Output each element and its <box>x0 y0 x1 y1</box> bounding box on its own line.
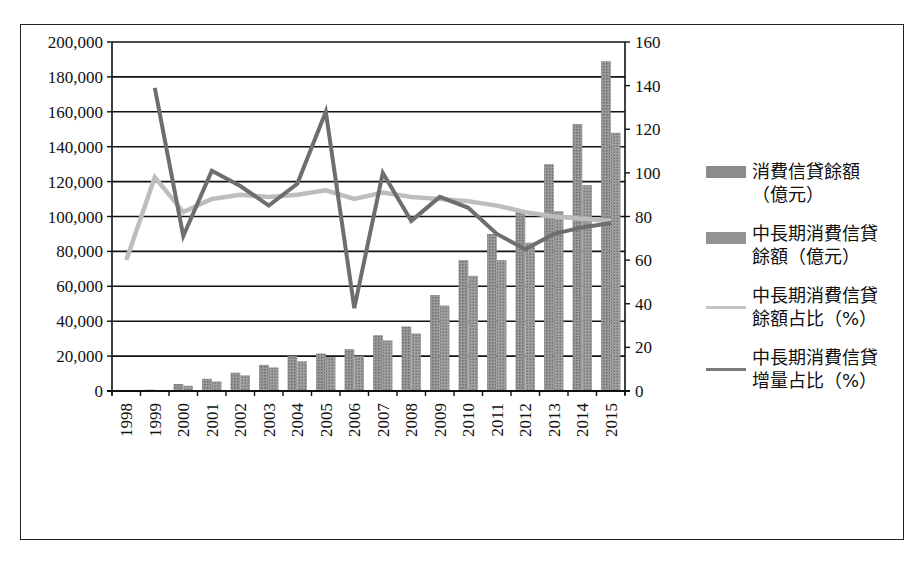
legend-label: 中長期消費信貸 增量占比（%） <box>752 346 878 392</box>
right-axis-tick: 160 <box>635 33 661 52</box>
legend-swatch-bar <box>706 166 746 178</box>
x-axis-tick: 1998 <box>117 403 136 437</box>
bar-mid-long-term <box>240 375 250 391</box>
right-axis-tick: 80 <box>635 208 652 227</box>
x-axis-tick: 2007 <box>374 403 393 438</box>
bar-mid-long-term <box>212 381 222 391</box>
x-axis-tick: 2004 <box>288 403 307 438</box>
bar-consumer-credit <box>373 335 383 391</box>
right-axis-tick: 120 <box>635 120 661 139</box>
left-axis-tick: 20,000 <box>56 347 103 366</box>
left-axis-tick: 160,000 <box>48 103 103 122</box>
x-axis-tick: 2003 <box>260 403 279 437</box>
bar-mid-long-term <box>383 340 393 391</box>
legend-label: 消費信貸餘額 （億元） <box>752 160 860 206</box>
bar-mid-long-term <box>411 333 421 391</box>
bar-mid-long-term <box>468 276 478 391</box>
x-axis-tick: 2014 <box>573 403 592 438</box>
left-axis-tick: 100,000 <box>48 208 103 227</box>
bar-consumer-credit <box>231 373 241 391</box>
bar-consumer-credit <box>402 326 412 391</box>
bar-mid-long-term <box>326 357 336 391</box>
right-axis-tick: 20 <box>635 338 652 357</box>
bar-consumer-credit <box>345 349 355 391</box>
bar-mid-long-term <box>582 185 592 391</box>
legend-swatch-bar <box>706 232 746 244</box>
bar-mid-long-term <box>611 133 621 391</box>
right-axis-tick: 40 <box>635 295 652 314</box>
x-axis-tick: 2006 <box>345 403 364 437</box>
bar-consumer-credit <box>174 384 184 391</box>
x-axis-tick: 1999 <box>146 403 165 437</box>
bar-mid-long-term <box>497 260 507 391</box>
line-series <box>126 88 611 308</box>
x-axis-tick-labels: 1998199920002001200220032004200520062007… <box>117 403 621 438</box>
right-axis-tick: 0 <box>635 382 644 401</box>
bar-consumer-credit <box>544 164 554 391</box>
bar-mid-long-term <box>354 356 364 391</box>
legend-item-consumer-credit-balance: 消費信貸餘額 （億元） <box>706 160 906 222</box>
left-axis-tick: 200,000 <box>48 33 103 52</box>
bar-consumer-credit <box>487 234 497 391</box>
legend: 消費信貸餘額 （億元） 中長期消費信貸 餘額（億元） 中長期消費信貸 餘額占比（… <box>706 160 906 408</box>
bar-consumer-credit <box>430 295 440 391</box>
x-axis-tick: 2010 <box>459 403 478 437</box>
bar-mid-long-term <box>554 211 564 391</box>
bar-mid-long-term <box>440 305 450 391</box>
left-axis-tick-labels: 020,00040,00060,00080,000100,000120,0001… <box>48 33 103 401</box>
bar-consumer-credit <box>573 124 583 391</box>
right-axis-tick-labels: 020406080100120140160 <box>635 33 661 401</box>
bar-mid-long-term <box>297 361 307 391</box>
right-axis-tick: 100 <box>635 164 661 183</box>
left-axis-tick: 180,000 <box>48 68 103 87</box>
bar-consumer-credit <box>259 365 269 391</box>
bar-mid-long-term <box>269 367 279 391</box>
x-axis-tick: 2012 <box>516 403 535 437</box>
x-axis-tick: 2001 <box>203 403 222 437</box>
bar-consumer-credit <box>288 356 298 391</box>
legend-label: 中長期消費信貸 餘額占比（%） <box>752 284 878 330</box>
left-axis-tick: 80,000 <box>56 242 103 261</box>
legend-swatch-line <box>706 368 746 371</box>
bar-mid-long-term <box>525 243 535 391</box>
bar-consumer-credit <box>516 211 526 391</box>
x-axis-tick: 2002 <box>231 403 250 437</box>
x-axis-tick: 2011 <box>488 403 507 436</box>
left-axis-tick: 140,000 <box>48 138 103 157</box>
legend-label: 中長期消費信貸 餘額（億元） <box>752 222 878 268</box>
legend-swatch-line <box>706 306 746 309</box>
legend-item-mid-long-term-increment-share: 中長期消費信貸 增量占比（%） <box>706 346 906 408</box>
x-axis-tick: 2000 <box>174 403 193 437</box>
x-axis-tick: 2008 <box>402 403 421 437</box>
left-axis-tick: 0 <box>95 382 104 401</box>
left-axis-tick: 120,000 <box>48 173 103 192</box>
bar-consumer-credit <box>459 260 469 391</box>
left-axis-tick: 40,000 <box>56 312 103 331</box>
x-axis-tick: 2009 <box>431 403 450 437</box>
legend-item-mid-long-term-balance: 中長期消費信貸 餘額（億元） <box>706 222 906 284</box>
bar-consumer-credit <box>202 379 212 391</box>
x-axis-tick: 2013 <box>545 403 564 437</box>
left-axis-tick: 60,000 <box>56 277 103 296</box>
legend-item-mid-long-term-share: 中長期消費信貸 餘額占比（%） <box>706 284 906 346</box>
bar-consumer-credit <box>316 353 326 391</box>
right-axis-tick: 140 <box>635 77 661 96</box>
x-axis-tick: 2015 <box>602 403 621 437</box>
right-axis-tick: 60 <box>635 251 652 270</box>
bar-series <box>145 61 620 391</box>
x-axis-tick: 2005 <box>317 403 336 437</box>
